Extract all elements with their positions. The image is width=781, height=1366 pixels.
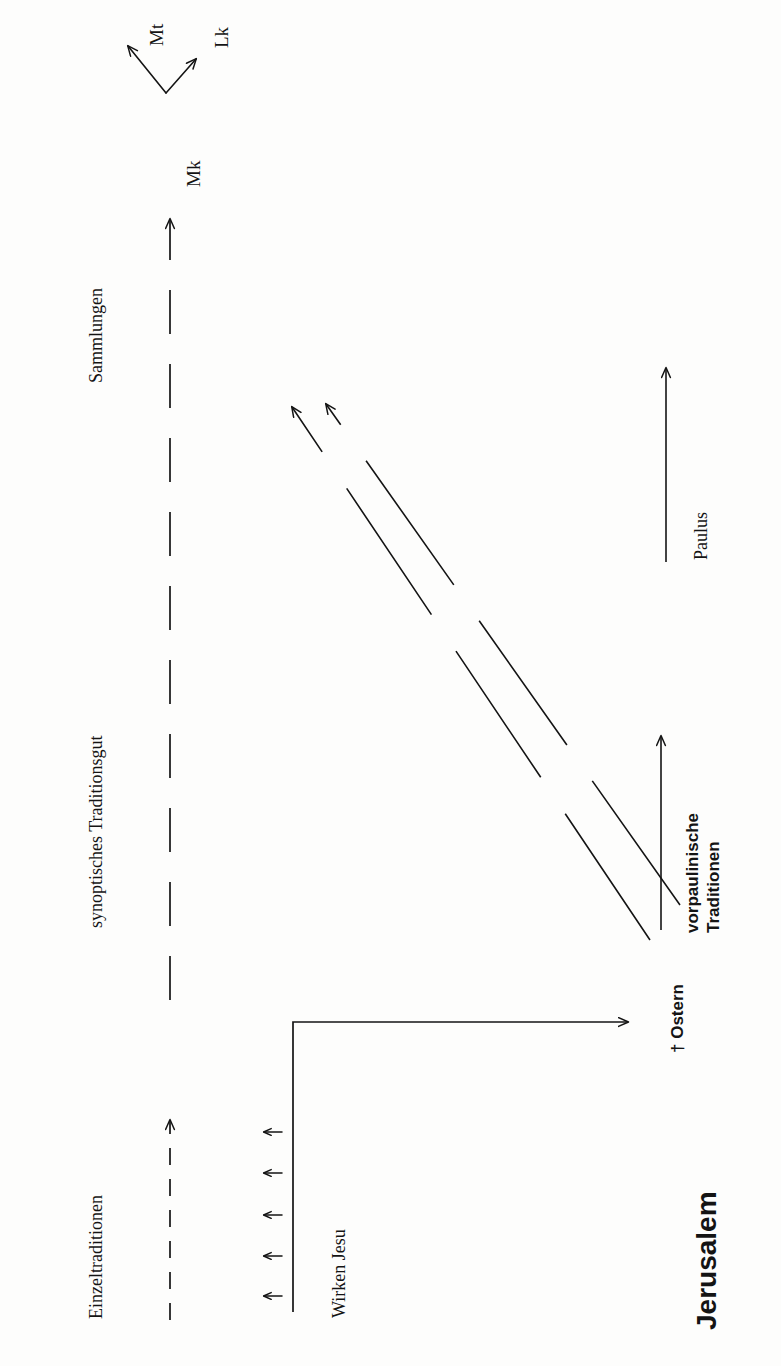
diagonal-arrow-2	[326, 404, 680, 905]
label-vorpaulinische-line1: vorpaulinische	[683, 813, 704, 933]
figure-line-art	[0, 0, 781, 1366]
diagram-canvas: Mt Lk Mk Sammlungen synoptisches Traditi…	[0, 0, 781, 1366]
diagonal-arrow-1	[292, 407, 650, 940]
label-lk: Lk	[211, 27, 233, 48]
label-mt: Mt	[146, 24, 168, 46]
label-wirken-jesu: Wirken Jesu	[329, 1229, 350, 1318]
label-jerusalem: Jerusalem	[690, 1191, 723, 1330]
label-vorpaulinische-traditionen: vorpaulinische Traditionen	[683, 813, 724, 933]
synoptic-branch-arrows	[128, 46, 196, 93]
label-ostern: † Ostern	[668, 984, 688, 1053]
arrow-mk-to-mt	[128, 46, 166, 93]
label-mk: Mk	[183, 161, 205, 187]
label-sammlungen: Sammlungen	[86, 288, 107, 383]
label-einzeltraditionen: Einzeltraditionen	[86, 1195, 107, 1319]
label-synoptisches-traditionsgut: synoptisches Traditionsgut	[86, 735, 107, 928]
diagonal-tradition-arrows	[292, 404, 680, 940]
feed-arrows-group	[264, 1132, 282, 1296]
arrow-mk-to-lk	[166, 59, 196, 93]
label-vorpaulinische-line2: Traditionen	[704, 813, 725, 933]
label-paulus: Paulus	[691, 512, 712, 560]
